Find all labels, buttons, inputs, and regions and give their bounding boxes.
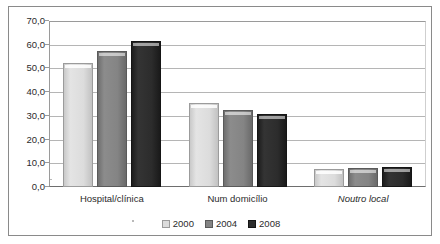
bar-2004-1[interactable] [97, 51, 127, 187]
bar-2000-1[interactable] [63, 63, 93, 188]
legend-item-2000[interactable]: 2000 [162, 219, 194, 229]
bar-2008-3[interactable] [382, 167, 412, 187]
bar-2000-3[interactable] [314, 169, 344, 187]
bar-2000-2[interactable] [189, 103, 219, 187]
legend-label: 2004 [216, 219, 237, 229]
scan-speck [132, 220, 134, 222]
legend-swatch-icon [248, 220, 256, 228]
legend-label: 2000 [173, 219, 194, 229]
y-axis-tick-label: 40,0 [11, 87, 45, 97]
y-axis-tick-label: 0,0 [11, 182, 45, 192]
bar-2004-3[interactable] [348, 168, 378, 187]
x-axis-category-labels: Hospital/clínicaNum domicílioNoutro loca… [49, 193, 426, 209]
bar-group [314, 21, 412, 187]
legend-swatch-icon [205, 220, 213, 228]
y-axis: 70,060,050,040,030,020,010,00,0 [9, 21, 45, 187]
y-axis-tick-label: 60,0 [11, 40, 45, 50]
legend-label: 2008 [259, 219, 280, 229]
bars-layer [49, 21, 426, 187]
y-axis-tick-label: 10,0 [11, 158, 45, 168]
scan-speck [50, 179, 52, 180]
x-axis-label-2: Num domicílio [175, 193, 301, 204]
bar-2008-1[interactable] [131, 41, 161, 187]
chart-legend: 200020042008 [9, 219, 433, 229]
y-axis-tick-label: 50,0 [11, 63, 45, 73]
legend-item-2004[interactable]: 2004 [205, 219, 237, 229]
y-axis-tick-label: 70,0 [11, 16, 45, 26]
bar-group [63, 21, 161, 187]
bar-2004-2[interactable] [223, 110, 253, 187]
bar-group [189, 21, 287, 187]
legend-swatch-icon [162, 220, 170, 228]
x-axis-label-3: Noutro local [300, 193, 426, 204]
legend-item-2008[interactable]: 2008 [248, 219, 280, 229]
x-axis-label-1: Hospital/clínica [49, 193, 175, 204]
y-axis-tick-label: 30,0 [11, 111, 45, 121]
y-axis-tick-label: 20,0 [11, 135, 45, 145]
bar-2008-2[interactable] [257, 114, 287, 188]
chart-frame: 70,060,050,040,030,020,010,00,0 Hospital… [8, 6, 432, 236]
